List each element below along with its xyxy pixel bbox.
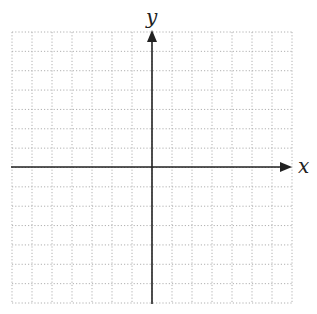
y-axis-arrow-icon [147,30,157,42]
x-axis-label: x [298,154,309,178]
y-axis-label: y [145,5,158,29]
coordinate-plane: x y [0,0,317,314]
x-axis-arrow-icon [280,162,292,172]
